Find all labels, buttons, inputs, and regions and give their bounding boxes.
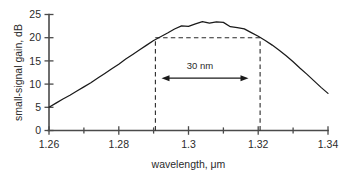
y-tick-label-0: 0 (35, 124, 41, 136)
x-tick-label-1-28: 1.28 (109, 138, 130, 150)
y-tick-label-25: 25 (29, 8, 41, 20)
y-tick-label-5: 5 (35, 101, 41, 113)
x-tick-label-1-26: 1.26 (39, 138, 60, 150)
y-axis-title: small-signal gain, dB (12, 24, 24, 121)
bandwidth-arrow (162, 75, 249, 81)
x-tick-label-1-32: 1.32 (248, 138, 269, 150)
y-tick-label-15: 15 (29, 55, 41, 67)
bandwidth-arrow-head-left (162, 75, 170, 81)
x-tick-label-1-34: 1.34 (318, 138, 339, 150)
x-tick-label-1-30: 1.3 (181, 138, 196, 150)
axes-group (48, 15, 328, 131)
bandwidth-arrow-head-right (241, 75, 249, 81)
y-tick-label-20: 20 (29, 31, 41, 43)
x-axis-title: wavelength, μm (151, 158, 226, 170)
bandwidth-label: 30 nm (187, 60, 213, 71)
y-tick-label-10: 10 (29, 78, 41, 90)
gain-spectrum-figure: 0 5 10 15 20 25 1.26 1.28 1.3 1.32 1.34 … (0, 0, 345, 176)
chart-canvas: 0 5 10 15 20 25 1.26 1.28 1.3 1.32 1.34 … (0, 0, 345, 176)
x-tick-labels: 1.26 1.28 1.3 1.32 1.34 (39, 138, 339, 150)
y-tick-labels: 0 5 10 15 20 25 (29, 8, 41, 136)
